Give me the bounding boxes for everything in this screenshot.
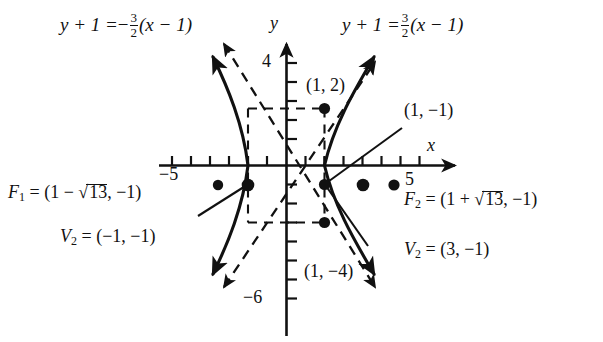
leader-lines xyxy=(198,128,402,246)
left-eq-denominator: 2 xyxy=(130,25,139,40)
x-tick-label-5: 5 xyxy=(405,170,414,188)
leader-vertex-right xyxy=(326,186,368,246)
vertex-left-label: V2 = (−1, −1) xyxy=(60,227,155,247)
point-focus-2 xyxy=(388,179,399,190)
left-eq-numerator: 3 xyxy=(130,11,139,25)
focus-2-label: F2 = (1 + √13, −1) xyxy=(404,190,537,210)
y-axis-label: y xyxy=(270,14,278,32)
point-co-vertex-bottom xyxy=(319,217,330,228)
co-vertex-top-label: (1, 2) xyxy=(306,76,345,94)
focus-1-equals: = (1 − xyxy=(30,182,74,202)
point-center xyxy=(319,179,330,190)
x-tick-label-neg-5: −5 xyxy=(159,165,178,183)
vertex-left-symbol: V xyxy=(60,226,71,246)
left-eq-rhs: (x − 1) xyxy=(139,14,192,35)
right-eq-denominator: 2 xyxy=(401,25,410,40)
vertex-left-subscript: 2 xyxy=(71,234,77,248)
co-vertex-bottom-label: (1, −4) xyxy=(304,262,353,280)
vertex-right-symbol: V xyxy=(404,239,415,259)
focus-1-symbol: F xyxy=(8,182,19,202)
right-eq-fraction: 32 xyxy=(401,11,410,39)
point-co-vertex-top xyxy=(319,103,330,114)
vertex-right-value: = (3, −1) xyxy=(426,239,490,259)
point-focus-1 xyxy=(213,180,223,190)
right-eq-lhs: y + 1 = xyxy=(342,14,400,35)
left-eq-fraction: 32 xyxy=(130,11,139,39)
left-eq-sign: − xyxy=(118,14,129,35)
focus-2-subscript: 2 xyxy=(415,197,421,211)
y-tick-label-neg-6: −6 xyxy=(243,288,262,306)
focus-2-symbol: F xyxy=(404,189,415,209)
vertex-left-value: = (−1, −1) xyxy=(82,226,156,246)
focus-1-radicand: 13 xyxy=(88,182,107,202)
vertex-right-subscript: 2 xyxy=(415,247,421,261)
vertex-right-label: V2 = (3, −1) xyxy=(404,240,489,260)
point-vertex-right xyxy=(357,179,370,192)
focus-2-tail: , −1) xyxy=(503,189,537,209)
right-asymptote-equation: y + 1 =32(x − 1) xyxy=(342,12,463,40)
focus-1-subscript: 1 xyxy=(19,190,25,204)
right-eq-rhs: (x − 1) xyxy=(410,14,463,35)
focus-1-label: F1 = (1 − √13, −1) xyxy=(8,183,141,203)
focus-2-equals: = (1 + xyxy=(426,189,470,209)
point-vertex-left xyxy=(242,179,255,192)
leader-center xyxy=(325,128,402,184)
x-axis-label: x xyxy=(427,136,435,154)
hyperbola-figure: y + 1 =−32(x − 1) y + 1 =32(x − 1) y x −… xyxy=(0,0,603,342)
focus-1-tail: , −1) xyxy=(107,182,141,202)
focus-1-sqrt: √13 xyxy=(78,183,107,201)
focus-2-sqrt: √13 xyxy=(474,190,503,208)
graph-canvas xyxy=(0,0,603,342)
left-asymptote-equation: y + 1 =−32(x − 1) xyxy=(60,12,192,40)
y-tick-label-4: 4 xyxy=(262,52,271,70)
left-eq-lhs: y + 1 = xyxy=(60,14,118,35)
center-label: (1, −1) xyxy=(404,101,453,119)
focus-2-radicand: 13 xyxy=(484,189,503,209)
right-eq-numerator: 3 xyxy=(401,11,410,25)
